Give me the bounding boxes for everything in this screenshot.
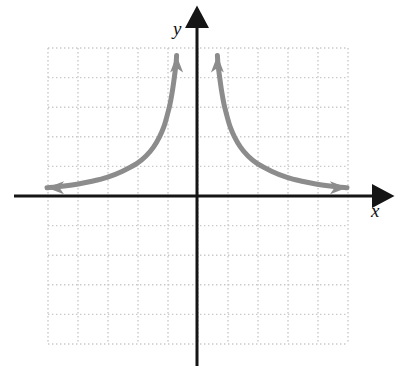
- curve-branch: [217, 55, 347, 187]
- curve-branch: [47, 55, 177, 187]
- graph-canvas: [0, 0, 403, 376]
- y-axis-label: y: [173, 19, 181, 38]
- x-axis-label: x: [371, 201, 379, 220]
- graph-figure: y x: [0, 0, 403, 376]
